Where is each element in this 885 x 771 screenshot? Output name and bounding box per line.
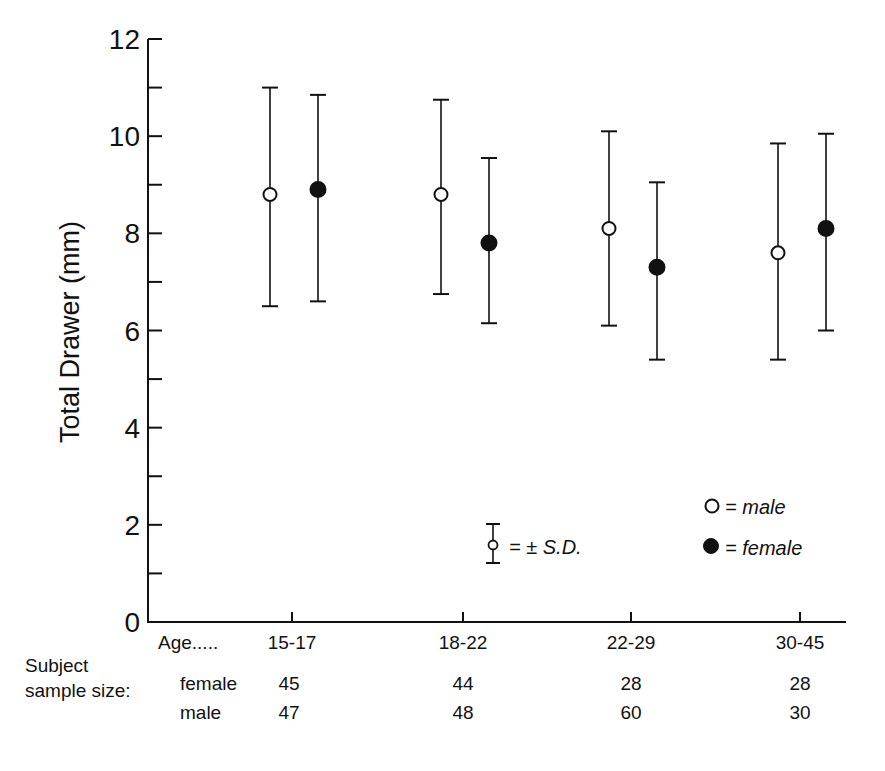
series-female xyxy=(310,95,834,360)
x-category-label: 18-22 xyxy=(439,632,488,654)
sample-size-male-value: 47 xyxy=(278,702,299,724)
open-circle-marker xyxy=(264,188,277,201)
legend-male-open-circle-icon xyxy=(706,500,719,513)
y-tick-label: 6 xyxy=(124,316,140,347)
x-axis-label: Age..... xyxy=(158,632,218,654)
filled-circle-marker xyxy=(482,236,497,251)
legend-female-label: = female xyxy=(725,537,802,560)
y-tick-label: 10 xyxy=(109,121,140,152)
sample-size-female-label: female xyxy=(180,673,237,695)
sample-size-female-value: 28 xyxy=(620,673,641,695)
sample-size-female-value: 44 xyxy=(452,673,473,695)
legend-sd-label: = ± S.D. xyxy=(509,536,582,559)
sample-size-male-label: male xyxy=(180,702,221,724)
sample-size-male-value: 60 xyxy=(620,702,641,724)
legend-male-label: = male xyxy=(725,496,786,519)
legend-female-filled-circle-icon xyxy=(704,539,719,554)
sample-size-female-value: 28 xyxy=(789,673,810,695)
chart: 024681012 xyxy=(0,0,885,771)
y-tick-label: 4 xyxy=(124,413,140,444)
y-tick-label: 12 xyxy=(109,24,140,55)
y-tick-label: 8 xyxy=(124,218,140,249)
filled-circle-marker xyxy=(650,260,665,275)
open-circle-marker xyxy=(435,188,448,201)
sd-key-open-circle-icon xyxy=(489,541,498,550)
y-axis-label: Total Drawer (mm) xyxy=(55,221,86,443)
sample-size-female-value: 45 xyxy=(278,673,299,695)
x-category-label: 30-45 xyxy=(776,632,825,654)
sample-size-label-line1: Subject xyxy=(25,655,88,677)
sample-size-male-value: 48 xyxy=(452,702,473,724)
filled-circle-marker xyxy=(819,221,834,236)
x-category-label: 22-29 xyxy=(607,632,656,654)
open-circle-marker xyxy=(603,222,616,235)
y-tick-label: 0 xyxy=(124,607,140,638)
sample-size-label-line2: sample size: xyxy=(25,680,131,702)
series-male xyxy=(262,88,786,360)
x-category-label: 15-17 xyxy=(268,632,317,654)
filled-circle-marker xyxy=(311,182,326,197)
open-circle-marker xyxy=(772,246,785,259)
sample-size-male-value: 30 xyxy=(789,702,810,724)
data-series xyxy=(262,88,834,360)
y-tick-label: 2 xyxy=(124,510,140,541)
